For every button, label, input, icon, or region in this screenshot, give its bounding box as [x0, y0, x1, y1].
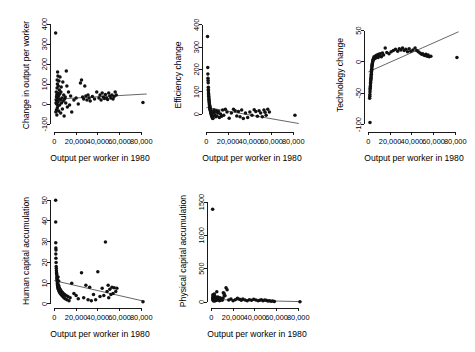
- data-point: [95, 90, 99, 94]
- data-point: [59, 111, 63, 115]
- panel-technology-change-x-tick-label: 40,000: [401, 137, 424, 146]
- panel-technology-change-y-tick-label: -50: [354, 88, 363, 99]
- panel-technology-change-x-tick-label: 20,000: [379, 137, 402, 146]
- panel-human-capital-x-tick-label: 40,000: [87, 313, 110, 322]
- data-point: [211, 208, 215, 212]
- panel-technology-change-canvas: -100-50050020,00040,00060,00080,000Techn…: [312, 2, 475, 176]
- data-point: [63, 95, 67, 99]
- panel-efficiency-change: 0100200300400020,00040,00060,00080,000Ef…: [152, 2, 312, 176]
- data-point: [106, 98, 110, 102]
- panel-physical-capital-y-tick-label: 0: [197, 300, 206, 304]
- data-point: [238, 115, 242, 119]
- panel-human-capital-y-tick-label: 0: [40, 302, 49, 306]
- data-point: [106, 283, 110, 287]
- data-point: [74, 294, 78, 298]
- panel-change-in-output-x-tick-label: 60,000: [108, 137, 131, 146]
- panel-human-capital-y-axis-title: Human capital accumulation: [21, 197, 31, 305]
- data-point: [237, 110, 241, 114]
- data-point: [104, 93, 108, 97]
- panel-change-in-output-points: [54, 31, 145, 118]
- panel-physical-capital-points: [211, 208, 302, 304]
- panel-change-in-output-y-tick-label: 0: [40, 102, 49, 106]
- data-point: [94, 298, 98, 302]
- panel-technology-change-x-tick-label: 60,000: [422, 137, 445, 146]
- panel-human-capital-y-tick-label: 30: [40, 238, 49, 246]
- data-point: [92, 293, 96, 297]
- data-point: [88, 99, 92, 103]
- panel-efficiency-change-canvas: 0100200300400020,00040,00060,00080,000Ef…: [152, 2, 312, 176]
- data-point: [107, 91, 111, 95]
- data-point: [68, 103, 72, 107]
- data-point: [293, 113, 297, 117]
- data-point: [82, 296, 86, 300]
- data-point: [100, 287, 104, 291]
- panel-human-capital-y-tick-label: 20: [40, 258, 49, 266]
- data-point: [206, 81, 210, 85]
- panel-change-in-output-y-tick-label: 300: [40, 38, 49, 50]
- data-point: [206, 72, 210, 76]
- data-point: [383, 46, 387, 50]
- data-point: [54, 261, 58, 265]
- panel-efficiency-change-y-tick-label: 400: [192, 19, 201, 31]
- data-point: [88, 286, 92, 290]
- data-point: [115, 287, 119, 291]
- panel-physical-capital-y-tick-label: 1000: [197, 227, 206, 243]
- data-point: [69, 94, 73, 98]
- panel-physical-capital-y-tick-label: 1500: [197, 194, 206, 210]
- data-point: [215, 290, 219, 294]
- data-point: [256, 115, 260, 119]
- data-point: [61, 107, 65, 111]
- data-point: [96, 270, 100, 274]
- panel-human-capital-x-axis-title: Output per worker in 1980: [50, 329, 150, 339]
- data-point: [223, 294, 227, 298]
- data-point: [56, 275, 60, 279]
- data-point: [67, 299, 71, 303]
- panel-efficiency-change-x-tick-label: 20,000: [217, 137, 240, 146]
- data-point: [261, 115, 265, 119]
- panel-human-capital-canvas: 01020304050020,00040,00060,00080,000Huma…: [0, 178, 160, 352]
- panel-physical-capital-canvas: 050010001500020,00040,00060,00080,000Phy…: [152, 178, 315, 352]
- data-point: [104, 240, 108, 244]
- multi-panel-scatter-figure: -1000100200300400020,00040,00060,00080,0…: [0, 0, 475, 352]
- data-point: [235, 114, 239, 118]
- panel-technology-change-x-tick-label: 80,000: [444, 137, 467, 146]
- data-point: [64, 101, 68, 105]
- data-point: [90, 299, 94, 303]
- data-point: [244, 111, 248, 115]
- data-point: [54, 220, 58, 224]
- data-point: [211, 117, 215, 121]
- data-point: [55, 113, 59, 117]
- panel-human-capital: 01020304050020,00040,00060,00080,000Huma…: [0, 178, 160, 352]
- panel-change-in-output-x-tick-label: 40,000: [87, 137, 110, 146]
- data-point: [141, 300, 145, 304]
- panel-physical-capital-y-axis-title: Physical capital accumulation: [178, 195, 188, 307]
- panel-efficiency-change-x-tick-label: 80,000: [282, 137, 305, 146]
- data-point: [65, 69, 69, 73]
- data-point: [248, 110, 252, 114]
- data-point: [429, 54, 433, 58]
- data-point: [227, 116, 231, 120]
- data-point: [54, 248, 58, 252]
- data-point: [58, 75, 62, 79]
- panel-efficiency-change-x-tick-label: 40,000: [239, 137, 262, 146]
- data-point: [93, 97, 97, 101]
- data-point: [70, 281, 74, 285]
- data-point: [82, 97, 86, 101]
- data-point: [298, 300, 302, 304]
- data-point: [113, 90, 117, 94]
- data-point: [368, 121, 372, 125]
- data-point: [206, 66, 210, 70]
- panel-physical-capital-x-tick-label: 60,000: [265, 313, 288, 322]
- data-point: [98, 295, 102, 299]
- panel-physical-capital-x-axis-title: Output per worker in 1980: [207, 329, 307, 339]
- panel-change-in-output: -1000100200300400020,00040,00060,00080,0…: [0, 2, 160, 176]
- panel-physical-capital-x-tick-label: 80,000: [287, 313, 310, 322]
- data-point: [80, 78, 84, 82]
- panel-efficiency-change-points: [206, 35, 297, 121]
- data-point: [273, 300, 277, 304]
- data-point: [455, 56, 459, 60]
- panel-efficiency-change-x-axis-title: Output per worker in 1980: [202, 153, 302, 163]
- panel-efficiency-change-y-tick-label: 300: [192, 41, 201, 53]
- data-point: [87, 96, 91, 100]
- panel-change-in-output-x-tick-label: 0: [52, 137, 56, 146]
